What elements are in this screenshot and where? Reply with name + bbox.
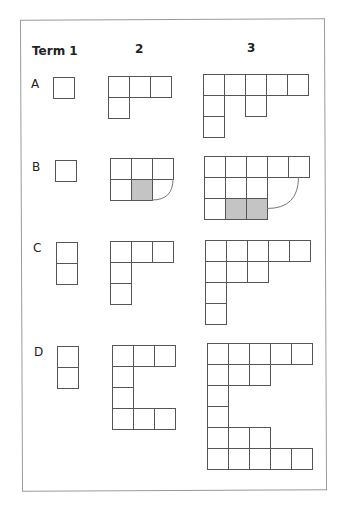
tile — [227, 262, 248, 283]
tile — [205, 199, 226, 220]
figure-c-term-2 — [111, 242, 174, 305]
tile — [246, 75, 267, 96]
tile — [134, 346, 155, 367]
tile — [111, 159, 132, 180]
tile — [113, 367, 134, 388]
shaded-tile — [132, 180, 153, 201]
tile — [205, 178, 226, 199]
tile — [153, 159, 174, 180]
move-arrow-arc — [267, 177, 299, 209]
figure-b-term-2 — [111, 159, 174, 201]
tile — [229, 428, 250, 449]
figure-b-term-3 — [205, 157, 310, 220]
tile — [290, 241, 311, 262]
tile — [226, 178, 247, 199]
tile — [247, 157, 268, 178]
tile — [111, 180, 132, 201]
figure-a-term-2 — [109, 77, 172, 119]
tile — [153, 242, 174, 263]
figure-c-term-3 — [206, 241, 311, 325]
tile — [204, 117, 225, 138]
shaded-tile — [226, 199, 247, 220]
tile — [229, 344, 250, 365]
tile — [206, 283, 227, 304]
move-arrow-arc — [152, 179, 173, 200]
tile — [229, 365, 250, 386]
tile — [229, 449, 250, 470]
tile — [54, 78, 75, 99]
figure-d-term-3 — [208, 344, 313, 470]
figure-d-term-1 — [58, 347, 79, 389]
tile — [113, 388, 134, 409]
tile — [155, 346, 176, 367]
tile — [247, 178, 268, 199]
tile — [204, 75, 225, 96]
figure-a-term-3 — [204, 75, 309, 138]
tile — [250, 365, 271, 386]
tile — [113, 346, 134, 367]
tile — [268, 157, 289, 178]
tile — [58, 347, 79, 368]
figure-d-term-2 — [113, 346, 176, 430]
tile — [204, 96, 225, 117]
tile — [130, 77, 151, 98]
tile — [206, 262, 227, 283]
tile — [271, 344, 292, 365]
tile — [58, 368, 79, 389]
tile — [206, 304, 227, 325]
tile — [288, 75, 309, 96]
tile — [208, 449, 229, 470]
tile — [208, 386, 229, 407]
tile — [208, 344, 229, 365]
tile — [208, 428, 229, 449]
tile — [292, 344, 313, 365]
tile — [226, 157, 247, 178]
tile — [111, 263, 132, 284]
tile — [208, 365, 229, 386]
tile — [109, 77, 130, 98]
figure-b-term-1 — [56, 161, 77, 182]
figure-a-term-1 — [54, 78, 75, 99]
tile — [57, 243, 78, 264]
tile — [56, 161, 77, 182]
shaded-tile — [247, 199, 268, 220]
tile — [248, 262, 269, 283]
tile — [289, 157, 310, 178]
tile — [250, 449, 271, 470]
tile — [227, 241, 248, 262]
tile — [155, 409, 176, 430]
tile — [271, 449, 292, 470]
tile — [109, 98, 130, 119]
tile — [208, 407, 229, 428]
figure-c-term-1 — [57, 243, 78, 285]
tile — [292, 449, 313, 470]
tile — [205, 157, 226, 178]
tile — [267, 75, 288, 96]
tile — [248, 241, 269, 262]
tile — [151, 77, 172, 98]
tile — [111, 242, 132, 263]
tile — [269, 241, 290, 262]
tile — [206, 241, 227, 262]
tile — [246, 96, 267, 117]
tile — [132, 242, 153, 263]
tile — [57, 264, 78, 285]
tile — [250, 428, 271, 449]
tile — [113, 409, 134, 430]
tile — [134, 409, 155, 430]
tile — [250, 344, 271, 365]
tile — [132, 159, 153, 180]
tile — [225, 75, 246, 96]
tile-figures — [0, 0, 339, 506]
tile — [111, 284, 132, 305]
